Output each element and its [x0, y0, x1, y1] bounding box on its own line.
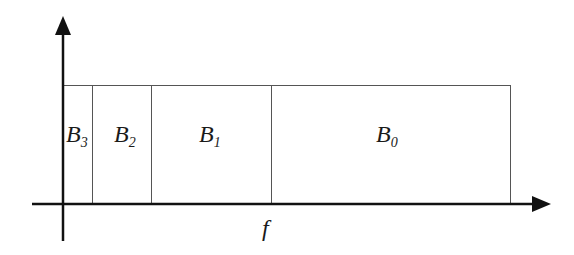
band-diagram: B3 B2 B1 B0 f [0, 0, 574, 255]
band-label-b0: B0 [376, 121, 398, 150]
band-label-b2: B2 [114, 121, 136, 150]
band-label-b1: B1 [199, 121, 221, 150]
x-axis-label: f [262, 215, 272, 241]
band-label-b3: B3 [66, 121, 88, 150]
y-axis-arrow-icon [55, 16, 71, 35]
x-axis-arrow-icon [532, 196, 551, 212]
